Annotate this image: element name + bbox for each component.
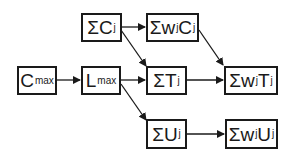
node-cmax-label: C xyxy=(20,71,34,90)
edge-lmax-sumu xyxy=(121,84,146,120)
node-sum-u-label: ΣU xyxy=(152,125,177,144)
node-lmax-label: L xyxy=(86,71,97,90)
node-sum-wc: ΣwjCj xyxy=(146,13,199,42)
node-sum-t: ΣTj xyxy=(146,66,187,95)
node-sum-wu: ΣwjUj xyxy=(225,119,278,149)
node-sum-c: ΣCj xyxy=(81,13,122,42)
node-sum-t-label: ΣT xyxy=(153,71,176,90)
edge-sumc-sumt xyxy=(121,30,146,66)
node-sum-c-label: ΣC xyxy=(87,18,112,37)
edge-sumwc-sumwt xyxy=(199,30,223,65)
node-sum-wt: ΣwjTj xyxy=(224,66,278,95)
node-lmax: Lmax xyxy=(81,66,121,95)
node-cmax: Cmax xyxy=(17,66,57,95)
node-sum-wc-label: Σw xyxy=(150,18,175,37)
node-sum-wt-label: Σw xyxy=(229,71,254,90)
node-sum-u: ΣUj xyxy=(146,119,187,149)
node-sum-wu-label: Σw xyxy=(229,125,254,144)
